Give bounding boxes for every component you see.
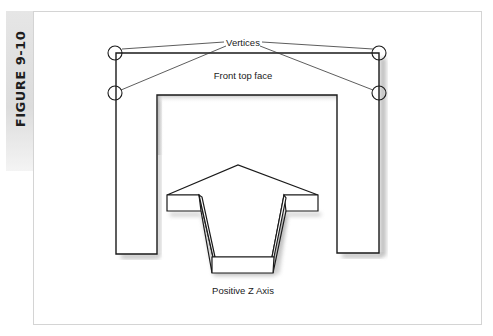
opening-shading [158, 95, 337, 155]
positive-z-axis-label: Positive Z Axis [212, 285, 274, 296]
vertices-label: Vertices [226, 37, 260, 48]
front-top-face-label: Front top face [214, 70, 273, 81]
positive-z-arrow-icon [167, 165, 318, 273]
diagram-canvas: Vertices Front top face Positive Z Axis [0, 0, 493, 336]
